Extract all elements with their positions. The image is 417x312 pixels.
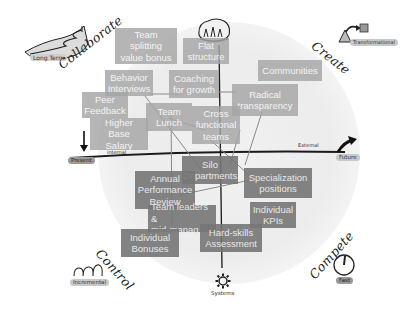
box-higher-base-salary: Higher Base Salary (90, 118, 148, 150)
gear-icon (215, 273, 231, 289)
quadrant-diagram: Long Term Transformational Incremental F… (0, 0, 417, 312)
axis-label-systems: Systems (211, 290, 234, 296)
box-coaching-for-growth: Coaching for growth (169, 70, 219, 98)
tag-incremental: Incremental (70, 279, 109, 286)
loops-icon (72, 262, 104, 278)
axis-label-future: Future (336, 154, 360, 161)
box-radical-transparency: Radical transparency (232, 84, 298, 116)
arrow-down-icon (80, 145, 88, 152)
box-hard-skills-assessment: Hard-skills Assessment (200, 224, 262, 252)
box-team-splitting-value-bonus: Team splitting value bonus (115, 28, 177, 64)
tag-fast: Fast (336, 277, 353, 284)
axis-note-external: External (298, 142, 319, 148)
box-flat-structure: Flat structure (183, 38, 229, 64)
box-peer-feedback: Peer Feedback (82, 92, 128, 118)
box-cross-functional-teams: Cross functional teams (192, 106, 240, 144)
box-individual-bonuses: Individual Bonuses (121, 229, 179, 257)
box-specialization-positions: Specialization positions (244, 168, 312, 198)
box-communities: Communities (258, 60, 322, 81)
axis-label-present: Present (68, 157, 95, 164)
box-team-lunch: Team Lunch (146, 103, 192, 131)
tag-transformational: Transformational (350, 39, 398, 46)
